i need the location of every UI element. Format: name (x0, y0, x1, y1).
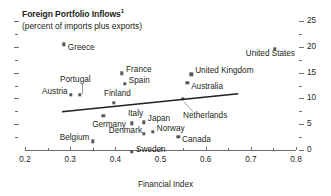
data-point-marker[interactable] (185, 81, 188, 84)
y-tick-label: 10 (307, 93, 316, 102)
data-point-label: United States (246, 50, 295, 58)
x-minor-tick (183, 148, 184, 150)
data-point-label: Australia (191, 83, 223, 91)
y-minor-tick-left (15, 60, 18, 61)
data-point-marker[interactable] (123, 82, 126, 85)
y-tick-left (14, 124, 19, 125)
x-tick-label: 0.4 (110, 155, 121, 164)
x-tick (206, 147, 207, 150)
plot-area: 0.20.30.40.50.60.70.80510152025GreeceUni… (0, 0, 331, 196)
data-point-marker[interactable] (101, 114, 104, 117)
data-point-marker[interactable] (62, 43, 65, 46)
x-tick-label: 0.5 (155, 155, 166, 164)
x-tick-label: 0.3 (64, 155, 75, 164)
data-point-label: Belgium (60, 134, 90, 142)
y-tick (299, 150, 304, 151)
data-point-marker[interactable] (120, 71, 123, 74)
x-minor-tick (48, 148, 49, 150)
data-point-label: Netherlands (183, 112, 227, 120)
data-point-label: Sweden (136, 146, 166, 154)
data-point-marker[interactable] (142, 132, 145, 135)
data-point-marker[interactable] (91, 140, 94, 143)
x-tick (70, 147, 71, 150)
data-point-marker[interactable] (69, 93, 72, 96)
x-tick-label: 0.8 (290, 155, 301, 164)
y-tick-left (14, 98, 19, 99)
data-point-label: Italy (128, 110, 143, 118)
data-point-label: Finland (104, 90, 131, 98)
data-point-marker[interactable] (130, 150, 133, 153)
y-tick (299, 47, 304, 48)
data-point-label: Norway (157, 125, 185, 133)
y-minor-tick-left (15, 34, 18, 35)
data-point-label: Greece (68, 44, 95, 52)
x-axis-label: Financial Index (0, 180, 331, 189)
y-minor-tick (299, 111, 302, 112)
data-point-marker[interactable] (176, 135, 179, 138)
data-point-label: Portugal (60, 76, 91, 84)
data-point-label: Japan (148, 115, 170, 123)
chart-container: Foreign Portfolio Inflows1 (percent of i… (0, 0, 331, 196)
y-tick-label: 5 (307, 119, 312, 128)
y-minor-tick-left (15, 111, 18, 112)
data-point-marker[interactable] (112, 101, 115, 104)
data-point-label: United Kingdom (195, 67, 253, 75)
y-tick (299, 124, 304, 125)
x-tick-label: 0.7 (245, 155, 256, 164)
data-point-label: Denmark (109, 127, 142, 135)
y-minor-tick-left (15, 137, 18, 138)
x-minor-tick (228, 148, 229, 150)
x-tick (115, 147, 116, 150)
data-point-label: France (126, 66, 151, 74)
data-point-marker[interactable] (151, 130, 154, 133)
y-tick (299, 98, 304, 99)
y-minor-tick (299, 86, 302, 87)
y-tick (299, 73, 304, 74)
x-tick (251, 147, 252, 150)
x-minor-tick (93, 148, 94, 150)
y-minor-tick (299, 60, 302, 61)
x-minor-tick (273, 148, 274, 150)
label-leader-line (82, 84, 83, 94)
y-tick-label: 15 (307, 68, 316, 77)
x-tick-label: 0.2 (19, 155, 30, 164)
y-minor-tick-left (15, 86, 18, 87)
data-point-marker[interactable] (181, 97, 184, 100)
y-minor-tick (299, 34, 302, 35)
data-point-label: Canada (182, 136, 211, 144)
x-tick-label: 0.6 (200, 155, 211, 164)
y-tick-left (14, 47, 19, 48)
data-point-marker[interactable] (190, 72, 193, 75)
x-tick (25, 147, 26, 150)
y-tick-left (14, 21, 19, 22)
y-tick-label: 25 (307, 16, 316, 25)
y-tick-left (14, 73, 19, 74)
data-point-label: Austria (42, 88, 67, 96)
data-point-marker[interactable] (130, 121, 133, 124)
y-tick (299, 21, 304, 22)
y-tick-label: 20 (307, 42, 316, 51)
data-point-marker[interactable] (142, 120, 145, 123)
y-tick-label: 0 (307, 145, 312, 154)
y-minor-tick (299, 137, 302, 138)
x-tick (296, 147, 297, 150)
data-point-label: Spain (129, 77, 150, 85)
